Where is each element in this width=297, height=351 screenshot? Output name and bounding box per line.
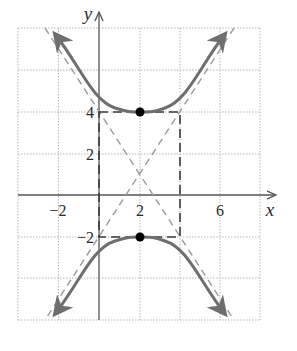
hyperbola-chart: −2 2 6 4 2 −2 x y (0, 0, 297, 351)
x-axis-label: x (265, 199, 275, 220)
x-tick-label-2: 2 (136, 202, 144, 219)
x-tick-label-neg2: −2 (49, 202, 66, 219)
x-tick-label-6: 6 (216, 202, 224, 219)
vertex-point-upper (136, 108, 145, 117)
y-axis-label: y (82, 3, 93, 24)
y-tick-label-4: 4 (86, 104, 94, 121)
vertex-point-lower (136, 233, 145, 242)
y-tick-label-neg2: −2 (77, 229, 94, 246)
y-tick-label-2: 2 (86, 146, 94, 163)
asymptotes (45, 28, 234, 320)
